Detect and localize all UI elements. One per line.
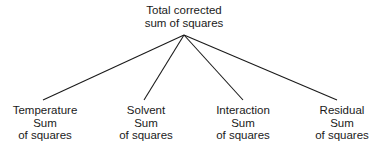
node-label-line: Solvent — [119, 104, 173, 117]
node-label-line: sum of squares — [145, 17, 224, 30]
edge-temperature — [43, 35, 184, 100]
node-label-line: of squares — [216, 129, 270, 142]
node-label-line: Residual — [315, 104, 369, 117]
node-label-line: Sum — [119, 117, 173, 130]
node-residual: Residual Sum of squares — [315, 104, 369, 142]
edge-interaction — [184, 35, 243, 100]
node-label-line: Interaction — [216, 104, 270, 117]
node-label-line: of squares — [315, 129, 369, 142]
node-solvent: Solvent Sum of squares — [119, 104, 173, 142]
node-label-line: Sum — [216, 117, 270, 130]
node-label-line: of squares — [13, 129, 78, 142]
node-interaction: Interaction Sum of squares — [216, 104, 270, 142]
node-temperature: Temperature Sum of squares — [13, 104, 78, 142]
node-label-line: Total corrected — [145, 4, 224, 17]
node-label-line: Sum — [13, 117, 78, 130]
node-total-corrected: Total corrected sum of squares — [145, 4, 224, 29]
node-label-line: Sum — [315, 117, 369, 130]
node-label-line: of squares — [119, 129, 173, 142]
edge-residual — [184, 35, 337, 100]
node-label-line: Temperature — [13, 104, 78, 117]
